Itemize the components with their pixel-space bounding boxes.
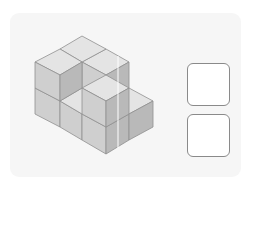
answer-box-1[interactable] — [187, 63, 230, 106]
answer-box-2[interactable] — [187, 114, 230, 157]
